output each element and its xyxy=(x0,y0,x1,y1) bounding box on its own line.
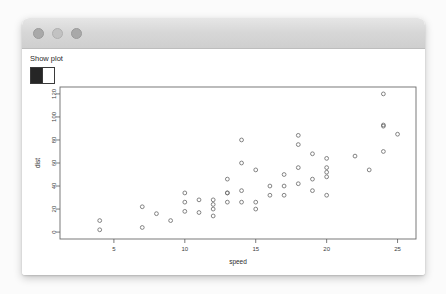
data-point xyxy=(98,219,102,223)
control-panel: Show plot xyxy=(30,54,63,84)
close-button[interactable] xyxy=(33,28,44,39)
data-point xyxy=(311,177,315,181)
x-tick-label: 15 xyxy=(252,246,259,252)
data-point xyxy=(325,193,329,197)
data-point xyxy=(367,168,371,172)
data-point xyxy=(381,92,385,96)
data-point xyxy=(240,189,244,193)
scatter-plot: 020406080100120510152025speeddist xyxy=(28,81,420,271)
data-point xyxy=(282,173,286,177)
data-point xyxy=(140,205,144,209)
data-point xyxy=(225,191,229,195)
data-point xyxy=(98,228,102,232)
y-tick-label: 80 xyxy=(51,136,57,143)
data-point xyxy=(155,212,159,216)
y-axis-title: dist xyxy=(34,158,41,168)
x-tick-label: 25 xyxy=(394,246,401,252)
data-point xyxy=(282,193,286,197)
data-point xyxy=(211,207,215,211)
show-plot-checkbox-label: Show plot xyxy=(30,54,63,64)
data-point xyxy=(396,132,400,136)
window-title-bar[interactable] xyxy=(22,18,425,49)
data-point xyxy=(140,226,144,230)
data-point xyxy=(296,143,300,147)
data-point xyxy=(240,161,244,165)
data-point xyxy=(211,198,215,202)
data-point xyxy=(240,138,244,142)
data-point xyxy=(325,156,329,160)
data-point xyxy=(296,133,300,137)
data-point xyxy=(296,166,300,170)
maximize-button[interactable] xyxy=(71,28,82,39)
data-point xyxy=(325,175,329,179)
data-point xyxy=(325,170,329,174)
data-point xyxy=(254,207,258,211)
data-point xyxy=(325,166,329,170)
data-point xyxy=(311,152,315,156)
data-point xyxy=(211,214,215,218)
data-point xyxy=(254,200,258,204)
data-point xyxy=(225,200,229,204)
data-point xyxy=(311,189,315,193)
data-point xyxy=(197,198,201,202)
data-point xyxy=(268,184,272,188)
x-axis-title: speed xyxy=(229,258,247,266)
plot-panel xyxy=(60,87,416,239)
data-point xyxy=(183,200,187,204)
data-point xyxy=(211,203,215,207)
plot-frame xyxy=(60,87,416,239)
data-point xyxy=(296,182,300,186)
data-points-group xyxy=(98,92,400,232)
data-point xyxy=(169,219,173,223)
y-tick-label: 40 xyxy=(51,182,57,189)
y-tick-label: 0 xyxy=(51,230,57,234)
data-point xyxy=(183,209,187,213)
x-tick-label: 10 xyxy=(181,246,188,252)
data-point xyxy=(183,191,187,195)
window-body: Show plot 020406080100120510152025speedd… xyxy=(22,49,425,275)
data-point xyxy=(353,154,357,158)
y-tick-label: 100 xyxy=(51,111,57,122)
data-point xyxy=(282,184,286,188)
data-point xyxy=(225,177,229,181)
data-point xyxy=(381,150,385,154)
y-tick-label: 120 xyxy=(51,88,57,99)
x-tick-label: 5 xyxy=(112,246,116,252)
app-window: Show plot 020406080100120510152025speedd… xyxy=(22,18,425,275)
y-tick-label: 20 xyxy=(51,205,57,212)
plot-canvas: 020406080100120510152025speeddist xyxy=(28,81,420,271)
y-tick-label: 60 xyxy=(51,159,57,166)
minimize-button[interactable] xyxy=(52,28,63,39)
data-point xyxy=(197,211,201,215)
x-tick-label: 20 xyxy=(323,246,330,252)
data-point xyxy=(268,193,272,197)
data-point xyxy=(240,200,244,204)
data-point xyxy=(254,168,258,172)
